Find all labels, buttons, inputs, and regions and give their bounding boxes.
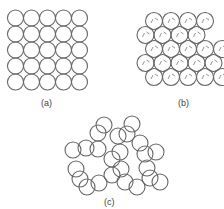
lower-layer-contact-mark xyxy=(219,47,221,51)
lower-layer-contact-mark xyxy=(206,18,209,20)
square-packed-circle xyxy=(56,26,72,42)
square-packed-circle xyxy=(72,26,88,42)
lower-layer-contact-mark xyxy=(177,33,179,37)
lower-layer-contact-mark xyxy=(151,47,153,51)
lower-layer-contact-mark xyxy=(194,61,196,65)
square-packed-circle xyxy=(72,10,88,26)
square-packed-circle xyxy=(8,74,24,90)
square-packed-circle xyxy=(40,58,56,74)
random-packed-circle xyxy=(68,161,84,177)
panel-c-random-packing xyxy=(65,116,168,195)
square-packed-circle xyxy=(56,10,72,26)
lower-layer-contact-mark xyxy=(223,74,224,76)
lower-layer-contact-mark xyxy=(194,33,196,37)
panel-a-square-packing xyxy=(8,10,88,90)
lower-layer-contact-mark xyxy=(177,61,179,65)
packing-figure: (a) (b) (c) xyxy=(0,0,224,209)
lower-layer-contact-mark xyxy=(155,74,158,76)
random-packed-circle xyxy=(148,144,164,160)
lower-layer-contact-mark xyxy=(223,46,224,48)
lower-layer-contact-mark xyxy=(164,32,167,34)
square-packed-circle xyxy=(40,42,56,58)
lower-layer-contact-mark xyxy=(202,47,204,51)
square-packed-circle xyxy=(8,10,24,26)
lower-layer-contact-mark xyxy=(202,75,204,79)
square-packed-circle xyxy=(72,58,88,74)
panel-b-label: (b) xyxy=(178,98,189,108)
hex-packed-circle xyxy=(197,69,214,86)
lower-layer-contact-mark xyxy=(206,46,209,48)
hex-packed-circle xyxy=(146,69,163,86)
lower-layer-contact-mark xyxy=(155,18,158,20)
square-packed-circle xyxy=(8,58,24,74)
square-packed-circle xyxy=(40,74,56,90)
random-packed-circle xyxy=(132,135,148,151)
lower-layer-contact-mark xyxy=(189,74,192,76)
lower-layer-contact-mark xyxy=(202,19,204,23)
lower-layer-contact-mark xyxy=(189,46,192,48)
random-packed-circle xyxy=(142,170,158,186)
random-packed-circle xyxy=(139,160,155,176)
hex-packed-circle xyxy=(180,69,197,86)
square-packed-circle xyxy=(24,58,40,74)
panel-b-hexagonal-packing xyxy=(137,13,224,86)
lower-layer-contact-mark xyxy=(211,61,213,65)
random-packed-circle xyxy=(124,116,140,132)
square-packed-circle xyxy=(56,42,72,58)
random-packed-circle xyxy=(152,174,168,190)
lower-layer-contact-mark xyxy=(160,61,162,65)
lower-layer-contact-mark xyxy=(172,18,175,20)
lower-layer-contact-mark xyxy=(181,60,184,62)
lower-layer-contact-mark xyxy=(147,60,150,62)
square-packed-circle xyxy=(72,74,88,90)
hex-packed-circle xyxy=(163,69,180,86)
packing-diagram xyxy=(0,0,224,209)
lower-layer-contact-mark xyxy=(172,46,175,48)
lower-layer-contact-mark xyxy=(155,46,158,48)
lower-layer-contact-mark xyxy=(219,75,221,79)
lower-layer-contact-mark xyxy=(168,19,170,23)
square-packed-circle xyxy=(8,26,24,42)
lower-layer-contact-mark xyxy=(160,33,162,37)
lower-layer-contact-mark xyxy=(181,32,184,34)
lower-layer-contact-mark xyxy=(143,61,145,65)
square-packed-circle xyxy=(40,10,56,26)
lower-layer-contact-mark xyxy=(172,74,175,76)
square-packed-circle xyxy=(56,58,72,74)
lower-layer-contact-mark xyxy=(147,32,150,34)
square-packed-circle xyxy=(24,74,40,90)
panel-a-label: (a) xyxy=(41,98,52,108)
lower-layer-contact-mark xyxy=(189,18,192,20)
square-packed-circle xyxy=(24,42,40,58)
lower-layer-contact-mark xyxy=(151,19,153,23)
square-packed-circle xyxy=(56,74,72,90)
random-packed-circle xyxy=(90,141,106,157)
random-packed-circle xyxy=(137,146,153,162)
panel-c-label: (c) xyxy=(104,197,115,207)
lower-layer-contact-mark xyxy=(168,47,170,51)
square-packed-circle xyxy=(24,10,40,26)
lower-layer-contact-mark xyxy=(185,47,187,51)
lower-layer-contact-mark xyxy=(198,60,201,62)
lower-layer-contact-mark xyxy=(185,19,187,23)
lower-layer-contact-mark xyxy=(143,33,145,37)
square-packed-circle xyxy=(72,42,88,58)
square-packed-circle xyxy=(24,26,40,42)
lower-layer-contact-mark xyxy=(151,75,153,79)
lower-layer-contact-mark xyxy=(185,75,187,79)
square-packed-circle xyxy=(40,26,56,42)
lower-layer-contact-mark xyxy=(215,60,218,62)
square-packed-circle xyxy=(8,42,24,58)
lower-layer-contact-mark xyxy=(198,32,201,34)
lower-layer-contact-mark xyxy=(164,60,167,62)
lower-layer-contact-mark xyxy=(168,75,170,79)
lower-layer-contact-mark xyxy=(206,74,209,76)
